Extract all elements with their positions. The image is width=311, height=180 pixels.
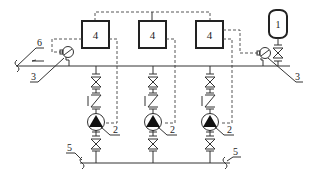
pressure-sensor-right	[257, 48, 271, 67]
sensor-left-label: 3	[31, 71, 36, 82]
pressure-tank: 1	[269, 10, 287, 66]
pump-station-diagram: 4 4 4	[0, 0, 311, 180]
pump-branch-1: 2	[88, 66, 121, 163]
pump-3-label: 2	[227, 124, 232, 135]
controller-3: 4	[196, 21, 223, 48]
inlet-pipe-right-label: 5	[233, 146, 238, 157]
pressure-sensor-left	[60, 47, 74, 67]
controller-2: 4	[139, 21, 166, 48]
controller-1: 4	[82, 21, 109, 48]
pump-2-label: 2	[170, 124, 175, 135]
controller-3-label: 4	[207, 29, 213, 41]
control-bus	[95, 12, 210, 21]
pump-branch-2: 2	[145, 66, 178, 163]
outlet-pipe-label: 6	[37, 37, 42, 48]
tank-label: 1	[276, 19, 281, 30]
pump-1-label: 2	[113, 124, 118, 135]
controller-2-label: 4	[150, 29, 156, 41]
sensor-right-label: 3	[295, 71, 300, 82]
controller-1-label: 4	[93, 29, 99, 41]
inlet-pipe-left-label: 5	[67, 142, 72, 153]
pump-branch-3: 2	[202, 66, 235, 163]
suction-header-pipe	[80, 157, 230, 169]
